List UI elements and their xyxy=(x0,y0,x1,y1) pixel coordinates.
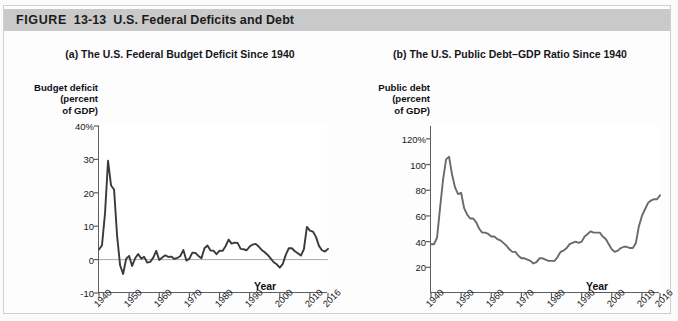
y-tick-label: 120% xyxy=(340,133,426,144)
figure-page: FIGURE 13-13 U.S. Federal Deficits and D… xyxy=(0,0,678,321)
y-tick-label: 40 xyxy=(340,236,426,247)
panel-b-title: (b) The U.S. Public Debt–GDP Ratio Since… xyxy=(340,48,670,60)
panel-a-y-axis-title-line-2: (percent xyxy=(14,93,98,104)
panel-a-chart-svg xyxy=(99,126,328,293)
panel-a: (a) The U.S. Federal Budget Deficit Sinc… xyxy=(8,40,338,310)
y-tick-label: 10 xyxy=(8,221,94,232)
panel-a-y-axis-title-line-3: of GDP) xyxy=(14,105,98,116)
y-tick-label: 30 xyxy=(8,154,94,165)
panel-b-y-ticks: 120%10080604020 xyxy=(340,126,426,293)
x-tick-label: 1940 xyxy=(92,287,114,309)
panel-b-y-axis-title-line-3: of GDP) xyxy=(346,105,430,116)
figure-heading: FIGURE 13-13 U.S. Federal Deficits and D… xyxy=(16,9,294,31)
panel-b-chart-svg xyxy=(431,126,660,293)
panel-a-plot-area xyxy=(98,126,327,293)
y-tick-label: 0 xyxy=(8,254,94,265)
x-tick-label: 1940 xyxy=(424,287,446,309)
data-series-line xyxy=(431,157,660,264)
y-tick-label: 20 xyxy=(340,262,426,273)
figure-number: 13-13 xyxy=(74,13,106,27)
data-series-line xyxy=(99,161,328,274)
figure-title: U.S. Federal Deficits and Debt xyxy=(113,13,294,27)
panel-a-y-ticks: 40%3020100-10 xyxy=(8,126,94,293)
figure-label: FIGURE xyxy=(16,13,67,27)
y-tick-label: -10 xyxy=(8,288,94,299)
panel-b-plot-area xyxy=(430,126,659,293)
panel-a-y-axis-title-line-1: Budget deficit xyxy=(14,82,98,93)
y-tick-label: 80 xyxy=(340,185,426,196)
panel-b-y-axis-title-line-1: Public debt xyxy=(346,82,430,93)
panel-b-y-axis-title: Public debt (percent of GDP) xyxy=(346,82,430,116)
panel-a-y-axis-title: Budget deficit (percent of GDP) xyxy=(14,82,98,116)
y-tick-label: 100 xyxy=(340,159,426,170)
panel-a-title: (a) The U.S. Federal Budget Deficit Sinc… xyxy=(8,48,338,60)
y-tick-label: 40% xyxy=(8,121,94,132)
panel-b-y-axis-title-line-2: (percent xyxy=(346,93,430,104)
y-tick-label: 20 xyxy=(8,187,94,198)
y-tick-label: 60 xyxy=(340,210,426,221)
panel-b: (b) The U.S. Public Debt–GDP Ratio Since… xyxy=(340,40,670,310)
